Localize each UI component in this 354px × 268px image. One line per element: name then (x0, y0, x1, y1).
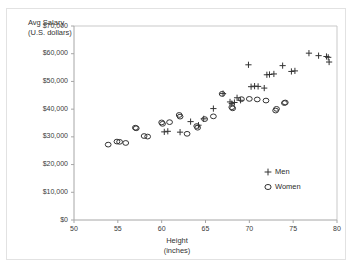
data-point-women (105, 142, 111, 147)
data-point-women (184, 131, 190, 136)
data-point-men (271, 71, 277, 77)
data-point-men (292, 68, 298, 74)
data-point-men (255, 83, 261, 89)
data-point-men (248, 84, 254, 90)
data-point-men (177, 129, 183, 135)
data-points (105, 50, 332, 147)
data-point-men (265, 169, 272, 176)
x-axis-title-line2: (inches) (0, 246, 354, 256)
x-tick-label: 80 (322, 225, 352, 232)
data-point-men (210, 105, 216, 111)
y-tick-label: $10,000 (22, 188, 68, 195)
y-tick-label: $30,000 (22, 132, 68, 139)
x-tick-label: 50 (59, 225, 89, 232)
x-tick-label: 55 (103, 225, 133, 232)
data-point-women (123, 141, 129, 146)
x-axis-title-line1: Height (166, 236, 188, 245)
scatter-plot-chart: Avg Salary (U.S. dollars) Height (inches… (0, 0, 354, 268)
y-axis-title-line2: (U.S. dollars) (28, 28, 72, 37)
x-axis-title: Height (inches) (0, 236, 354, 255)
x-tick-label: 65 (191, 225, 221, 232)
data-point-men (315, 53, 321, 59)
legend-item-women: Women (275, 182, 301, 191)
data-point-men (161, 129, 167, 135)
data-point-women (145, 134, 151, 139)
data-point-women (254, 97, 260, 102)
legend-item-label: Women (275, 182, 301, 191)
data-point-men (306, 50, 312, 56)
y-tick-label: $60,000 (22, 49, 68, 56)
x-tick-label: 60 (147, 225, 177, 232)
data-point-women (167, 120, 173, 125)
legend-item-label: Men (275, 167, 290, 176)
data-point-women (265, 184, 271, 189)
data-point-women (263, 98, 269, 103)
y-tick-label: $70,000 (22, 22, 68, 29)
x-tick-label: 75 (278, 225, 308, 232)
y-tick-label: $50,000 (22, 77, 68, 84)
data-point-women (239, 97, 245, 102)
data-point-women (246, 97, 252, 102)
legend-item-men: Men (275, 167, 290, 176)
y-tick-label: $20,000 (22, 160, 68, 167)
data-point-men (288, 68, 294, 74)
data-point-women (210, 114, 216, 119)
data-point-men (245, 62, 251, 68)
axis-ticks (71, 26, 337, 223)
y-tick-label: $0 (22, 216, 68, 223)
y-tick-label: $40,000 (22, 105, 68, 112)
legend-markers (265, 169, 272, 190)
data-point-men (261, 85, 267, 91)
data-point-men (187, 119, 193, 125)
data-point-men (165, 128, 171, 134)
x-tick-label: 70 (234, 225, 264, 232)
data-point-men (326, 59, 332, 65)
data-point-men (280, 63, 286, 69)
